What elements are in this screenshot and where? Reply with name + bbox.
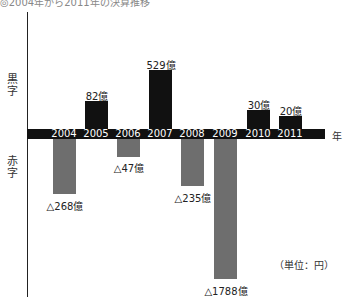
vertical-axis [27, 12, 28, 297]
year-tick-2011: 2011 [275, 129, 305, 139]
data-label-2008: △235億 [168, 190, 218, 205]
year-tick-2004: 2004 [49, 129, 79, 139]
year-tick-2009: 2009 [210, 129, 240, 139]
bar-2008 [181, 139, 204, 186]
data-label-2004: △268億 [40, 198, 90, 213]
bar-2005 [85, 101, 108, 129]
data-label-2009: △1788億 [201, 283, 251, 297]
unit-label: （単位：円） [274, 257, 334, 272]
profit-label: 黒字 [6, 74, 18, 98]
bar-2004 [53, 139, 76, 194]
loss-label: 赤字 [6, 156, 18, 180]
year-tick-2005: 2005 [81, 129, 111, 139]
data-label-2011: 20億 [266, 103, 316, 118]
data-label-2006: △47億 [104, 160, 154, 175]
year-tick-2008: 2008 [177, 129, 207, 139]
data-label-2005: 82億 [72, 88, 122, 103]
chart-title: ◎2004年から2011年の決算推移 [0, 0, 150, 9]
bar-2007 [149, 70, 172, 129]
year-tick-2007: 2007 [145, 129, 175, 139]
year-tick-2010: 2010 [243, 129, 273, 139]
year-tick-2006: 2006 [113, 129, 143, 139]
bar-2006 [117, 139, 140, 157]
data-label-2007: 529億 [136, 57, 186, 72]
year-axis-label: 年 [332, 128, 342, 143]
bar-2009 [214, 139, 237, 279]
